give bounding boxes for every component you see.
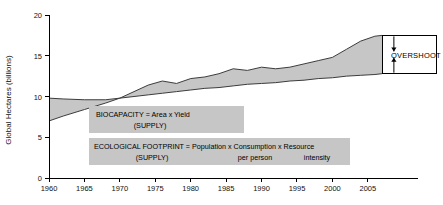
chart-figure: 05101520 1960196519701975198019851990199… xyxy=(0,0,443,205)
overshoot-annotation: OVERSHOOT xyxy=(382,35,441,73)
footprint-callout-line1: ECOLOGICAL FOOTPRINT = Population x Cons… xyxy=(94,142,314,151)
footprint-callout-sub2: intensity xyxy=(304,153,331,162)
y-axis-title: Global Hectares (billions) xyxy=(4,55,13,145)
y-tick-label: 15 xyxy=(34,52,42,61)
x-axis-tick-labels: 1960196519701975198019851990199520002005 xyxy=(41,184,377,193)
y-axis-tick-labels: 05101520 xyxy=(34,11,42,183)
x-tick-label: 1980 xyxy=(182,184,199,193)
x-tick-label: 1995 xyxy=(289,184,306,193)
y-axis-ticks xyxy=(45,15,49,178)
footprint-callout: ECOLOGICAL FOOTPRINT = Population x Cons… xyxy=(89,138,350,165)
overshoot-label: OVERSHOOT xyxy=(391,51,441,60)
x-tick-label: 1975 xyxy=(147,184,164,193)
footprint-callout-sub1: per person xyxy=(238,153,272,162)
biocapacity-callout-line2: (SUPPLY) xyxy=(134,121,167,130)
x-axis-ticks xyxy=(49,178,368,182)
y-tick-label: 20 xyxy=(34,11,42,20)
x-tick-label: 1985 xyxy=(218,184,235,193)
y-tick-label: 10 xyxy=(34,93,42,102)
y-tick-label: 0 xyxy=(38,174,42,183)
x-tick-label: 1990 xyxy=(253,184,270,193)
x-tick-label: 2000 xyxy=(324,184,341,193)
biocapacity-callout: BIOCAPACITY = Area x Yield (SUPPLY) xyxy=(89,106,244,133)
footprint-callout-line2: (SUPPLY) xyxy=(136,153,169,162)
overshoot-area-chart: 05101520 1960196519701975198019851990199… xyxy=(0,0,443,205)
x-tick-label: 1970 xyxy=(112,184,129,193)
x-tick-label: 1965 xyxy=(76,184,93,193)
x-tick-label: 1960 xyxy=(41,184,58,193)
biocapacity-callout-line1: BIOCAPACITY = Area x Yield xyxy=(96,110,190,119)
x-tick-label: 2005 xyxy=(359,184,376,193)
y-tick-label: 5 xyxy=(38,133,42,142)
